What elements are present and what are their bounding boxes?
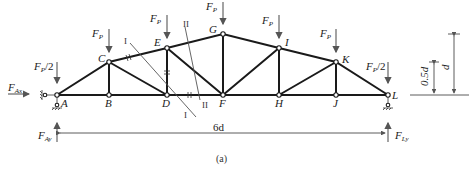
node-label-F: F bbox=[218, 97, 226, 109]
load-label-E: FP bbox=[149, 12, 162, 26]
figure-caption: (a) bbox=[216, 153, 227, 165]
node-label-E: E bbox=[153, 36, 161, 48]
load-label-G: FP bbox=[205, 0, 218, 14]
truss-members bbox=[57, 34, 388, 95]
span-dimension: 6d bbox=[60, 121, 385, 133]
span-label: 6d bbox=[213, 121, 225, 133]
node-label-I: I bbox=[284, 36, 290, 48]
full-height-label: d bbox=[439, 64, 451, 70]
load-label-A: FP/2 bbox=[33, 60, 54, 74]
reaction-label-FLy: FLy bbox=[394, 129, 409, 143]
node-label-H: H bbox=[274, 97, 284, 109]
load-label-K: FP bbox=[319, 27, 332, 41]
half-height-label: 0.5d bbox=[418, 66, 430, 86]
node-label-B: B bbox=[105, 97, 112, 109]
reaction-forces: FAx FAy FLy bbox=[7, 81, 409, 143]
section-I-bottom-label: I bbox=[184, 110, 187, 120]
height-dimensions: 0.5d d bbox=[410, 34, 469, 95]
node-label-D: D bbox=[161, 97, 170, 109]
node-label-K: K bbox=[341, 53, 350, 65]
reaction-label-FAx: FAx bbox=[7, 81, 23, 95]
node-label-G: G bbox=[209, 23, 217, 35]
load-label-I: FP bbox=[261, 14, 274, 28]
section-I-top-label: I bbox=[124, 36, 127, 46]
node-label-L: L bbox=[391, 89, 398, 101]
reaction-label-FAy: FAy bbox=[37, 129, 53, 143]
node-label-J: J bbox=[333, 97, 339, 109]
load-label-C: FP bbox=[91, 27, 104, 41]
load-label-L: FP/2 bbox=[365, 60, 386, 74]
truss-diagram: I I II II A B C D E F G H I J K L bbox=[0, 0, 469, 178]
section-II-top-label: II bbox=[183, 19, 189, 29]
node-label-C: C bbox=[98, 52, 106, 64]
section-II-bottom-label: II bbox=[202, 100, 208, 110]
node-label-A: A bbox=[60, 97, 68, 109]
